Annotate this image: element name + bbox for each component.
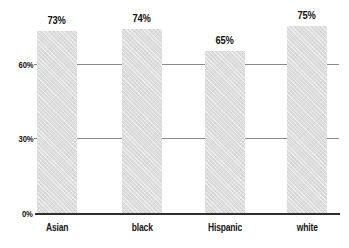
bar-Asian (37, 31, 77, 213)
category-label-white: white (271, 222, 343, 234)
category-label-Hispanic: Hispanic (189, 222, 261, 234)
y-tick-label-60%: 60% (0, 59, 33, 71)
plot-area: 0%30%60%73%Asian74%black65%Hispanic75%wh… (0, 0, 349, 248)
category-label-Asian: Asian (21, 222, 93, 234)
y-tick-label-0%: 0% (0, 208, 33, 220)
bar-value-label-black-text: 74% (133, 11, 151, 25)
y-tick-label-30%: 30% (0, 133, 33, 145)
bar-value-label-Asian: 73% (27, 13, 87, 27)
category-label-Asian-text: Asian (46, 222, 68, 234)
x-axis-line (35, 213, 340, 215)
bar-white (287, 26, 327, 213)
category-label-white-text: white (297, 222, 318, 234)
y-tick-label-60%-text: 60% (18, 59, 33, 71)
bar-Hispanic (205, 51, 245, 213)
bar-value-label-black: 74% (112, 11, 172, 25)
bar-value-label-Hispanic: 65% (195, 33, 255, 47)
y-tick-label-0%-text: 0% (22, 208, 33, 220)
category-label-black: black (106, 222, 178, 234)
bar-value-label-white-text: 75% (298, 8, 316, 22)
bar-chart: 0%30%60%73%Asian74%black65%Hispanic75%wh… (0, 0, 349, 248)
bar-black (122, 29, 162, 213)
bar-value-label-Asian-text: 73% (48, 13, 66, 27)
bar-value-label-white: 75% (277, 8, 337, 22)
bar-value-label-Hispanic-text: 65% (216, 33, 234, 47)
category-label-Hispanic-text: Hispanic (208, 222, 242, 234)
y-tick-label-30%-text: 30% (18, 133, 33, 145)
category-label-black-text: black (132, 222, 153, 234)
